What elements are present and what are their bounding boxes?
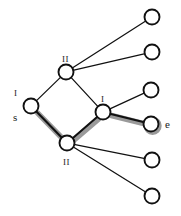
graph-node-leaf (145, 10, 160, 25)
highlighted-edge-halo (111, 115, 145, 124)
graph-edge (74, 144, 145, 158)
graph-figure: II I s I II e (0, 0, 181, 216)
node-label-end: e (165, 119, 170, 130)
graph-edge (109, 93, 144, 109)
node-label-upper: II (62, 55, 69, 64)
graph-canvas (0, 0, 181, 216)
graph-node-leaf (144, 83, 159, 98)
node-label-source: s (13, 112, 17, 123)
graph-edge (73, 147, 146, 193)
graph-edge (71, 77, 98, 107)
graph-node-internal (59, 65, 74, 80)
edge-layer (36, 21, 146, 193)
graph-node-leaf (145, 189, 160, 204)
graph-node-leaf (145, 153, 160, 168)
graph-edge (73, 54, 145, 71)
highlighted-path-layer (37, 113, 145, 140)
node-layer (24, 10, 161, 204)
graph-node-internal (24, 99, 39, 114)
graph-node-leaf (144, 117, 159, 132)
graph-edge (36, 77, 61, 101)
graph-edge (36, 111, 62, 138)
graph-edge (72, 21, 146, 68)
graph-node-internal (96, 105, 111, 120)
graph-edge (72, 117, 97, 139)
node-label-source-marker: I (14, 89, 17, 98)
node-label-bottom: II (63, 158, 70, 167)
highlighted-edge-halo (74, 118, 99, 140)
graph-node-leaf (145, 45, 160, 60)
graph-node-internal (60, 136, 75, 151)
node-label-right: I (101, 95, 104, 104)
